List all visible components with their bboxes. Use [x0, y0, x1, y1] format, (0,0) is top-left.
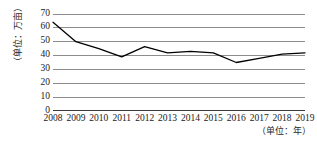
- x-axis-tick-labels: 2008200920102011201220132014201520162017…: [40, 113, 317, 125]
- x-axis-line: [53, 110, 305, 111]
- x-axis-title: （单位：年）: [257, 126, 311, 137]
- y-axis-tick-label: 10: [26, 92, 50, 102]
- line-chart: （单位：万亩） 010203040506070 2008200920102011…: [0, 0, 317, 144]
- y-axis-title: （单位：万亩）: [10, 0, 26, 70]
- x-axis-tick-label: 2019: [290, 113, 317, 124]
- series-line: [53, 14, 305, 111]
- y-axis-tick-label: 60: [26, 22, 50, 32]
- y-axis-tick-label: 50: [26, 36, 50, 46]
- plot-area: [53, 14, 305, 111]
- y-axis-tick-label: 20: [26, 78, 50, 88]
- y-axis-tick-label: 40: [26, 50, 50, 60]
- y-axis-tick-label: 70: [26, 9, 50, 19]
- y-axis-tick-label: 30: [26, 64, 50, 74]
